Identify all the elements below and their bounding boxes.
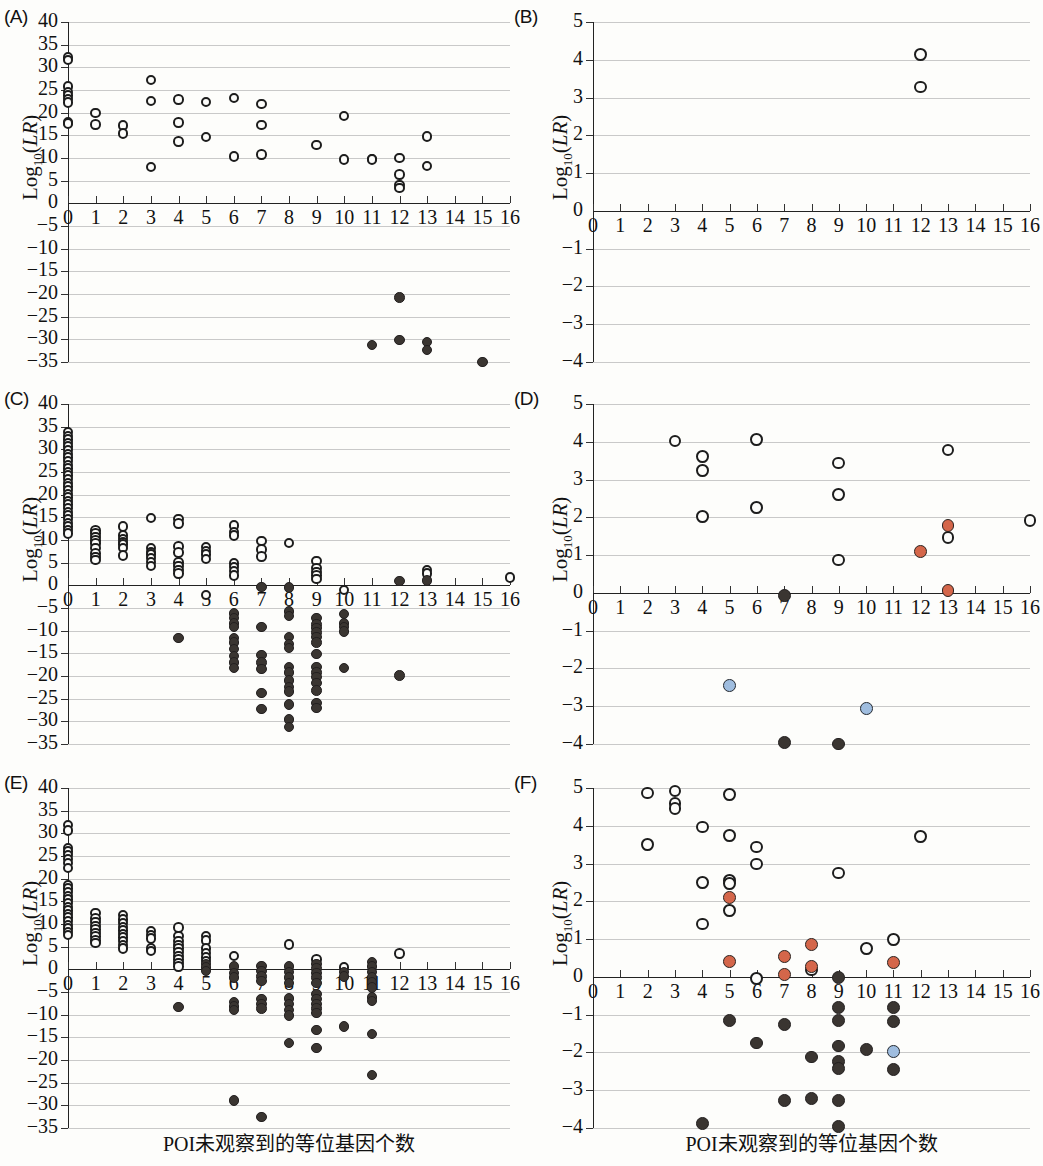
data-point-blue: [887, 1045, 900, 1058]
x-tick-label: 5: [716, 980, 744, 1003]
data-point-open: [146, 946, 156, 956]
x-tick: [620, 586, 621, 593]
plot-area-b: 543210−1−2−3−4012345678910111213141516: [593, 22, 1030, 362]
y-tick: [61, 271, 68, 272]
x-tick: [593, 586, 594, 593]
data-point-open: [750, 841, 763, 854]
gridline: [593, 249, 1030, 250]
data-point-open: [696, 464, 709, 477]
x-tick-label: 11: [879, 214, 907, 237]
figure-root: (A)Log10(LR)4035302520151050−5−10−15−20−…: [0, 0, 1043, 1166]
y-tick: [586, 286, 593, 287]
gridline: [68, 811, 510, 812]
plot-area-f: 543210−1−2−3−4012345678910111213141516: [593, 788, 1030, 1128]
data-point-open: [723, 877, 736, 890]
y-tick-label: −10: [10, 1002, 58, 1025]
y-tick-label: −2: [535, 273, 583, 296]
x-tick: [123, 962, 124, 969]
y-tick: [586, 864, 593, 865]
x-tick-label: 4: [165, 588, 193, 611]
x-tick-label: 0: [579, 980, 607, 1003]
y-tick: [586, 826, 593, 827]
x-tick-label: 10: [852, 596, 880, 619]
y-tick: [61, 1105, 68, 1106]
y-tick: [61, 67, 68, 68]
data-point-dark: [832, 738, 845, 751]
y-tick-label: −3: [535, 1077, 583, 1100]
x-tick-label: 13: [934, 980, 962, 1003]
data-point-dark: [778, 1094, 791, 1107]
x-tick: [893, 970, 894, 977]
data-point-open: [118, 128, 128, 138]
data-point-open: [942, 531, 955, 544]
x-tick: [482, 196, 483, 203]
x-tick-label: 0: [54, 206, 82, 229]
data-point-open: [914, 48, 927, 61]
data-point-dark: [832, 1094, 845, 1107]
y-tick: [586, 939, 593, 940]
x-tick: [482, 962, 483, 969]
x-tick-label: 0: [54, 972, 82, 995]
data-point-open: [146, 561, 156, 571]
data-point-open: [723, 829, 736, 842]
y-tick-label: 20: [10, 866, 58, 889]
data-point-dark: [805, 1051, 818, 1064]
x-tick-label: 8: [798, 980, 826, 1003]
data-point-open: [201, 132, 211, 142]
y-tick-label: 3: [535, 467, 583, 490]
x-tick: [96, 962, 97, 969]
y-tick-label: −35: [10, 349, 58, 372]
gridline: [593, 744, 1030, 745]
data-point-open: [173, 117, 183, 127]
x-tick: [866, 586, 867, 593]
x-tick-label: 16: [496, 972, 524, 995]
y-tick: [586, 706, 593, 707]
data-point-dark: [394, 670, 404, 680]
y-tick-label: −4: [535, 731, 583, 754]
data-point-dark: [311, 637, 321, 647]
y-tick: [61, 1083, 68, 1084]
x-axis-label-e: POI未观察到的等位基因个数: [68, 1128, 510, 1157]
x-tick-label: 13: [934, 596, 962, 619]
y-tick: [61, 1128, 68, 1129]
x-tick-label: 9: [303, 206, 331, 229]
gridline: [593, 480, 1030, 481]
y-tick-label: 4: [535, 47, 583, 70]
data-point-dark: [229, 622, 239, 632]
x-tick-label: 15: [468, 972, 496, 995]
gridline: [68, 362, 510, 363]
x-tick-label: 3: [661, 596, 689, 619]
x-tick: [96, 196, 97, 203]
data-point-dark: [887, 1015, 900, 1028]
y-tick-label: −3: [535, 693, 583, 716]
y-tick-label: −4: [535, 1115, 583, 1138]
x-tick-label: 12: [386, 206, 414, 229]
data-point-dark: [367, 1070, 377, 1080]
x-tick: [893, 586, 894, 593]
x-tick-label: 2: [634, 980, 662, 1003]
x-tick-label: 16: [496, 206, 524, 229]
data-point-dark: [832, 1062, 845, 1075]
y-tick: [61, 631, 68, 632]
y-tick: [61, 788, 68, 789]
y-tick: [586, 249, 593, 250]
y-tick-label: −30: [10, 708, 58, 731]
y-tick-label: 30: [10, 820, 58, 843]
data-point-open: [229, 530, 239, 540]
x-tick: [123, 578, 124, 585]
data-point-open: [832, 488, 845, 501]
x-tick-label: 12: [907, 596, 935, 619]
data-point-open: [422, 131, 432, 141]
y-tick-label: −30: [10, 1092, 58, 1115]
data-point-open: [723, 788, 736, 801]
data-point-dark: [887, 1063, 900, 1076]
gridline: [593, 173, 1030, 174]
y-tick-label: 5: [535, 9, 583, 32]
data-point-open: [860, 942, 873, 955]
data-point-dark: [394, 576, 404, 586]
y-tick: [61, 294, 68, 295]
data-point-open: [229, 93, 239, 103]
data-point-open: [311, 574, 321, 584]
data-point-open: [669, 785, 682, 798]
data-point-open: [914, 830, 927, 843]
